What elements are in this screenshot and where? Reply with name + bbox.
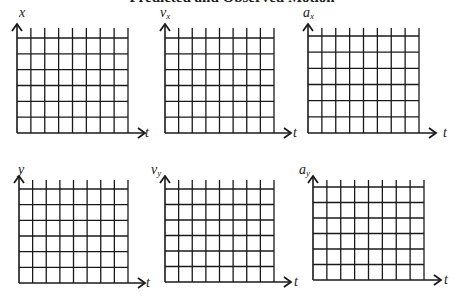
grid-ay [0,0,464,299]
